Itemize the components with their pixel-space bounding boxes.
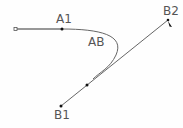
start-point-marker[interactable] xyxy=(14,28,17,31)
line-b xyxy=(61,20,168,106)
diagram-canvas: A1 AB B1 B2 xyxy=(0,0,183,128)
cursor-arrow-icon xyxy=(168,21,172,27)
label-a1: A1 xyxy=(56,13,72,25)
label-b1: B1 xyxy=(54,109,70,121)
point-b2[interactable] xyxy=(167,19,170,22)
diagram-svg xyxy=(0,0,183,128)
label-b2: B2 xyxy=(163,5,179,17)
point-mid[interactable] xyxy=(86,84,89,87)
point-a1[interactable] xyxy=(61,28,64,31)
label-ab: AB xyxy=(88,36,104,48)
